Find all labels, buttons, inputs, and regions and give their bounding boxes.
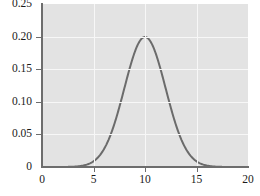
y-axis-tick xyxy=(36,102,41,103)
gridline-vertical xyxy=(145,4,146,167)
gridline-vertical xyxy=(94,4,95,167)
y-axis-tick-label: 0.15 xyxy=(0,63,32,75)
y-axis-tick-label: 0 xyxy=(0,161,32,173)
plot-panel xyxy=(42,4,248,167)
y-axis-line xyxy=(41,3,43,168)
x-axis-tick xyxy=(145,168,146,172)
y-axis-tick-label: 0.10 xyxy=(0,96,32,108)
y-axis-tick xyxy=(36,37,41,38)
x-axis-tick-label: 0 xyxy=(27,174,57,186)
y-axis-tick-label: 0.05 xyxy=(0,128,32,140)
x-axis-tick-label: 20 xyxy=(233,174,260,186)
x-axis-tick xyxy=(94,168,95,172)
gridline-vertical xyxy=(197,4,198,167)
y-axis-tick xyxy=(36,134,41,135)
y-axis-tick-label: 0.25 xyxy=(0,0,32,10)
x-axis-tick xyxy=(197,168,198,172)
y-axis-tick xyxy=(36,69,41,70)
x-axis-tick-label: 15 xyxy=(182,174,212,186)
chart-figure: 00.050.100.150.200.2505101520 xyxy=(0,0,260,196)
x-axis-tick-label: 5 xyxy=(79,174,109,186)
y-axis-tick-label: 0.20 xyxy=(0,31,32,43)
x-axis-tick-label: 10 xyxy=(130,174,160,186)
